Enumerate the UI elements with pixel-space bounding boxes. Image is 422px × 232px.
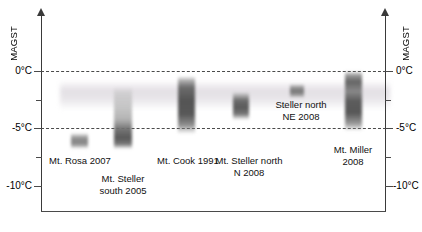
bar-label-mt-rosa: Mt. Rosa 2007 xyxy=(33,155,127,167)
bar-mt-rosa-2007 xyxy=(71,133,88,149)
left-axis-line xyxy=(41,15,42,212)
bar-mt-steller-south-2005 xyxy=(114,87,132,149)
bar-label-mt-steller-south-line2: south 2005 xyxy=(78,185,168,197)
right-tick-label-minus5: -5°C xyxy=(396,122,422,133)
left-tick-label-minus5: -5°C xyxy=(2,122,32,133)
left-axis-title: MAGST xyxy=(8,26,19,61)
bar-mt-cook-1991 xyxy=(178,76,195,134)
right-tick-0 xyxy=(385,71,393,72)
left-tick-label-minus10: -10°C xyxy=(0,180,32,191)
bar-label-mt-miller-line2: 2008 xyxy=(315,156,391,168)
magst-chart: MAGST 0°C -5°C -10°C MAGST 0°C -5°C -10°… xyxy=(0,0,422,232)
right-tick-minus10 xyxy=(385,186,393,187)
right-axis-line xyxy=(385,15,386,212)
right-axis-title: MAGST xyxy=(400,26,411,61)
right-tick-minus5 xyxy=(385,128,393,129)
bar-label-steller-north-ne-line2: NE 2008 xyxy=(255,111,347,123)
gridline-minus5c xyxy=(41,128,386,129)
left-tick-minus10 xyxy=(34,186,42,187)
plot-baseline xyxy=(41,211,386,212)
bar-label-mt-steller-north-n-line1: Mt. Steller north xyxy=(194,155,304,167)
bar-label-mt-steller-south-line1: Mt. Steller xyxy=(78,173,168,185)
right-tick-label-minus10: -10°C xyxy=(393,180,422,191)
gridline-0c xyxy=(41,71,386,72)
bar-label-steller-north-ne-line1: Steller north xyxy=(255,99,347,111)
bar-label-mt-miller-line1: Mt. Miller xyxy=(315,144,391,156)
bar-mt-steller-north-n-2008 xyxy=(233,92,249,120)
left-tick-label-0: 0°C xyxy=(2,65,32,76)
bar-label-mt-steller-north-n-line2: N 2008 xyxy=(194,167,304,179)
bar-mt-miller-2008 xyxy=(345,71,362,131)
right-tick-label-0: 0°C xyxy=(396,65,422,76)
left-tick-minor-2_5 xyxy=(36,100,42,101)
bar-steller-north-ne-2008 xyxy=(290,84,304,98)
right-tick-minor-2_5 xyxy=(385,100,391,101)
